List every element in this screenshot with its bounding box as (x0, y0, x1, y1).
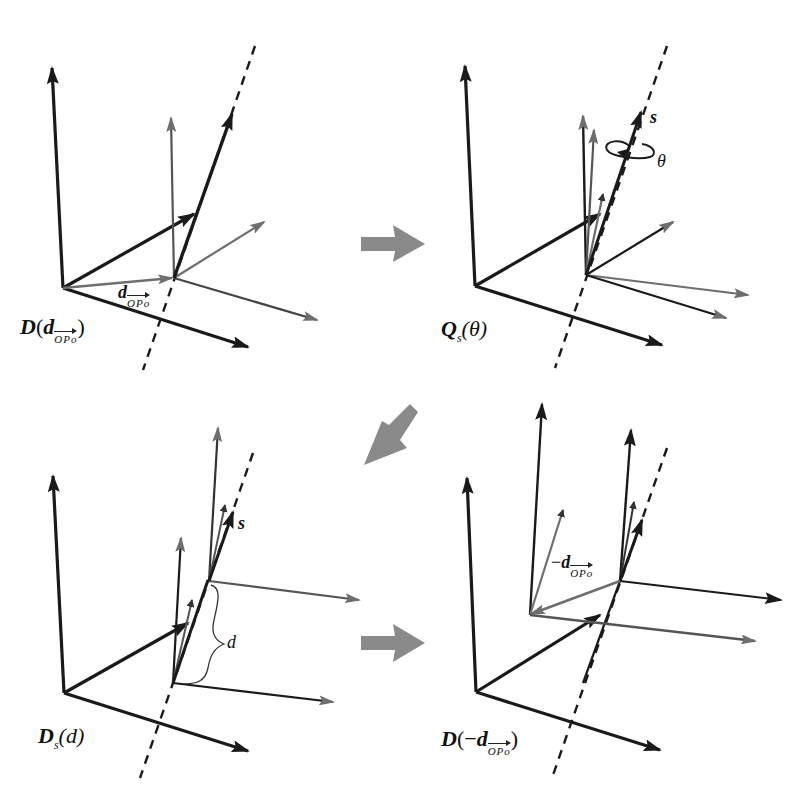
base-frame (465, 66, 662, 345)
neg-translation-vector (531, 581, 620, 614)
panel-4 (467, 404, 781, 775)
panel-2-label: Qs(θ) (441, 318, 487, 344)
moved-frame (171, 114, 317, 320)
translated-frame (209, 428, 359, 600)
base-frame (53, 476, 248, 751)
flow-arrow-down-left (364, 404, 418, 465)
panel-3-s-label: s (238, 514, 245, 532)
flow-arrow-right-1 (361, 225, 425, 262)
panel-1-label: D(dOPo) (20, 316, 85, 345)
panel-3-d-label: d (227, 633, 236, 651)
panel-1 (52, 46, 317, 370)
frame-at-screw-point (583, 430, 781, 683)
screw-axis (555, 46, 667, 368)
panel-4-vector-label: −dOPo (551, 553, 593, 579)
panel-2-s-label: s (650, 108, 657, 126)
panel-1-vector-label: dOPo (118, 283, 150, 309)
flow-arrow-right-2 (361, 624, 425, 662)
screw-motion-diagram (0, 0, 809, 792)
panel-4-label: D(−dOPo) (441, 728, 518, 757)
panel-3-label: Ds(d) (38, 725, 84, 751)
rotated-frame-at-origin (173, 538, 333, 702)
panel-3 (53, 428, 359, 778)
panel-2 (465, 46, 748, 368)
panel-2-theta-label: θ (657, 152, 666, 170)
